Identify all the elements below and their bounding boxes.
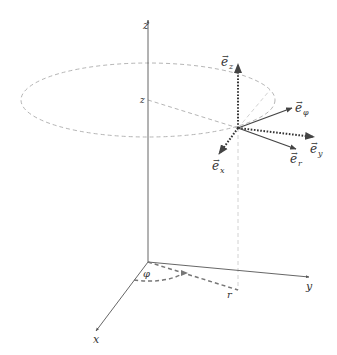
svg-text:y: y <box>317 149 323 158</box>
x-axis <box>96 262 148 331</box>
y-axis-label: y <box>305 280 313 293</box>
angle-phi-label: φ <box>143 268 150 279</box>
e-r-label: e r → <box>290 149 303 168</box>
svg-text:x: x <box>220 166 225 175</box>
cylindrical-coordinates-diagram: z x y z r φ e z → e φ → e y → e r → e x … <box>0 0 337 355</box>
e-x-vector <box>219 128 238 154</box>
y-axis <box>148 262 309 277</box>
e-phi-vector <box>238 108 292 128</box>
vector-arrow-glyph: → <box>222 52 229 61</box>
vector-arrow-glyph: → <box>311 139 318 148</box>
height-z-label: z <box>139 95 145 105</box>
e-y-label: e y → <box>310 139 323 158</box>
e-phi-label: e φ → <box>295 98 309 117</box>
e-x-label: e x → <box>212 156 225 175</box>
vector-arrow-glyph: → <box>213 156 220 165</box>
vector-arrow-glyph: → <box>296 98 303 107</box>
phi-arc <box>134 273 184 281</box>
z-axis-label: z <box>142 19 149 32</box>
vector-arrow-glyph: → <box>291 149 298 158</box>
svg-text:φ: φ <box>303 108 309 117</box>
radius-r-label: r <box>227 289 233 300</box>
svg-text:r: r <box>298 159 303 168</box>
x-axis-label: x <box>93 333 100 346</box>
e-z-label: e z → <box>221 52 234 71</box>
svg-text:z: z <box>228 62 234 71</box>
phi-arc-arrow <box>181 270 188 276</box>
height-guide-line <box>148 100 238 128</box>
